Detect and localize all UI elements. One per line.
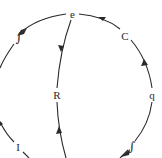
label-lower-left: I xyxy=(16,141,20,153)
label-right: q xyxy=(149,89,155,101)
flow-diagram: e C q R I ∫ ∫ xyxy=(0,0,162,158)
arc-right-upper xyxy=(131,40,152,88)
chord-upper xyxy=(57,20,71,88)
arc-top-right xyxy=(79,14,120,29)
arc-right-lower xyxy=(135,102,152,141)
label-center: R xyxy=(53,89,61,101)
arrow-right-icon xyxy=(141,59,148,66)
integral-upper-left-icon: ∫ xyxy=(16,30,23,45)
label-top: e xyxy=(70,8,75,20)
arc-top-left xyxy=(19,14,66,34)
integral-lower-right-icon: ∫ xyxy=(129,139,136,154)
arrow-chord-up-icon xyxy=(56,126,62,134)
arc-lower-left xyxy=(0,122,14,142)
arc-bottom-left xyxy=(23,152,29,158)
label-upper-right: C xyxy=(121,30,128,42)
arc-left xyxy=(0,44,14,68)
